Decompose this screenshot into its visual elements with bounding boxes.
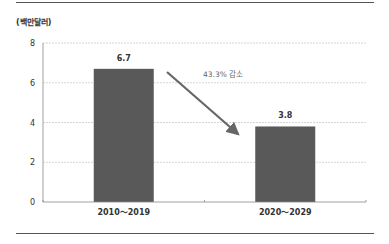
value-label: 3.8 — [278, 111, 293, 120]
decrease-annotation: 43.3% 감소 — [167, 69, 243, 134]
y-axis-ticks: 02468 — [30, 39, 35, 207]
category-label: 2010～2019 — [97, 208, 150, 217]
value-label: 6.7 — [117, 54, 131, 63]
y-tick-label: 6 — [30, 79, 35, 88]
down-arrow-icon — [167, 72, 238, 134]
bar-chart: 02468 6.73.8 2010～20192020～2029 43.3% 감소 — [0, 0, 389, 244]
bar — [255, 126, 315, 202]
bar — [94, 69, 154, 202]
category-label: 2020～2029 — [259, 208, 312, 217]
category-labels: 2010～20192020～2029 — [97, 208, 311, 217]
y-tick-label: 8 — [30, 39, 35, 48]
bars — [94, 69, 316, 202]
y-tick-label: 0 — [30, 198, 35, 207]
y-tick-label: 2 — [30, 158, 35, 167]
annotation-text: 43.3% 감소 — [203, 69, 243, 79]
gridlines — [43, 43, 366, 162]
y-tick-label: 4 — [30, 119, 35, 128]
bottom-rule — [16, 233, 374, 234]
